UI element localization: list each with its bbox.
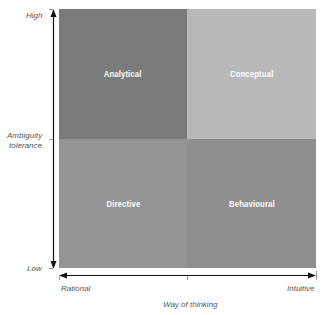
y-axis-title-line2: tolerance bbox=[9, 140, 42, 151]
x-axis-title: Way of thinking bbox=[163, 299, 218, 310]
x-axis-arrow bbox=[59, 271, 317, 280]
axes bbox=[0, 0, 321, 315]
x-axis-left-label: Rational bbox=[61, 283, 90, 294]
x-axis-right-label: Intuitive bbox=[287, 283, 315, 294]
y-axis-low-label: Low bbox=[27, 263, 42, 274]
y-axis-arrow bbox=[49, 9, 57, 269]
y-axis-high-label: High bbox=[26, 10, 42, 21]
